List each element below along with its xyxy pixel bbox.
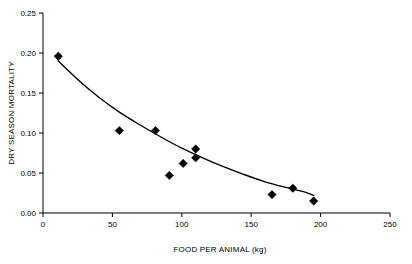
y-tick-label: 0.05 [20, 169, 36, 178]
data-point-marker [289, 184, 297, 192]
y-tick-label: 0.10 [20, 129, 36, 138]
data-point-marker [115, 126, 123, 134]
data-point-marker [309, 197, 317, 205]
x-axis-ticks: 050100150200250 [41, 213, 397, 229]
x-axis-title: FOOD PER ANIMAL (kg) [173, 245, 266, 254]
y-axis-ticks: 0.000.050.100.150.200.25 [20, 9, 43, 218]
x-tick-label: 200 [314, 220, 328, 229]
data-point-marker [191, 145, 199, 153]
y-tick-label: 0.15 [20, 89, 36, 98]
y-axis-group: 0.000.050.100.150.200.25 [20, 9, 43, 218]
data-points-group [54, 52, 318, 205]
y-tick-label: 0.25 [20, 9, 36, 18]
data-point-marker [191, 154, 199, 162]
chart-figure: 0.000.050.100.150.200.25 050100150200250… [0, 0, 412, 264]
x-axis-group: 050100150200250 [41, 213, 397, 229]
data-point-marker [54, 52, 62, 60]
x-tick-label: 250 [383, 220, 397, 229]
y-axis-title: DRY SEASON MORTALITY [7, 61, 16, 165]
x-tick-label: 100 [175, 220, 189, 229]
data-point-marker [179, 159, 187, 167]
y-tick-label: 0.00 [20, 209, 36, 218]
y-tick-label: 0.20 [20, 49, 36, 58]
data-point-marker [165, 171, 173, 179]
x-tick-label: 150 [245, 220, 259, 229]
data-point-marker [151, 126, 159, 134]
trend-curve [58, 61, 313, 195]
x-tick-label: 0 [41, 220, 46, 229]
scatter-plot: 0.000.050.100.150.200.25 050100150200250… [0, 0, 412, 264]
data-point-marker [268, 190, 276, 198]
x-tick-label: 50 [108, 220, 117, 229]
